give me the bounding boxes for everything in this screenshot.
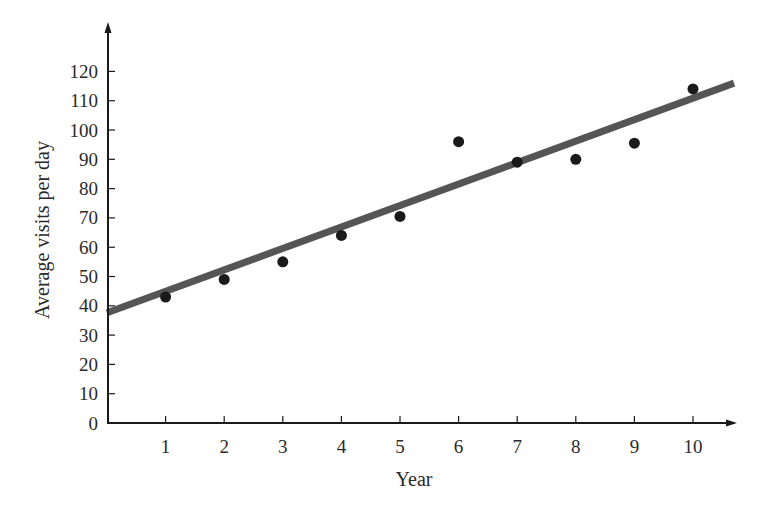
data-point [629, 138, 640, 149]
y-tick-label: 70 [79, 207, 98, 228]
x-tick-label: 4 [337, 436, 347, 457]
axes [105, 22, 738, 427]
data-point [277, 256, 288, 267]
y-tick-label: 50 [79, 266, 98, 287]
x-tick-label: 6 [454, 436, 464, 457]
x-tick-label: 5 [395, 436, 405, 457]
y-tick-label: 0 [89, 413, 99, 434]
data-point [395, 211, 406, 222]
x-axis-arrow-icon [726, 420, 737, 427]
y-tick-label: 10 [79, 383, 98, 404]
x-tick-label: 2 [219, 436, 229, 457]
y-tick-label: 80 [79, 178, 98, 199]
y-tick-label: 20 [79, 354, 98, 375]
x-tick-label: 1 [161, 436, 171, 457]
x-tick-label: 7 [512, 436, 522, 457]
regression-line [107, 83, 734, 313]
data-point [453, 136, 464, 147]
data-point [688, 83, 699, 94]
y-tick-label: 100 [70, 120, 99, 141]
y-tick-label: 110 [70, 90, 98, 111]
y-tick-label: 30 [79, 325, 98, 346]
data-point [570, 154, 581, 165]
y-axis-arrow-icon [105, 22, 112, 33]
data-point [160, 292, 171, 303]
y-tick-label: 120 [70, 61, 99, 82]
x-tick-label: 10 [684, 436, 703, 457]
y-tick-label: 40 [79, 295, 98, 316]
x-tick-label: 8 [571, 436, 581, 457]
y-tick-label: 90 [79, 149, 98, 170]
x-tick-label: 9 [630, 436, 640, 457]
data-point [512, 157, 523, 168]
y-axis-label: Average visits per day [31, 141, 54, 319]
x-axis-label: Year [396, 468, 433, 490]
scatter-chart: 0102030405060708090100110120 12345678910… [0, 0, 767, 505]
data-point [219, 274, 230, 285]
data-point [336, 230, 347, 241]
y-tick-label: 60 [79, 237, 98, 258]
trend-line [107, 83, 734, 313]
x-tick-label: 3 [278, 436, 288, 457]
